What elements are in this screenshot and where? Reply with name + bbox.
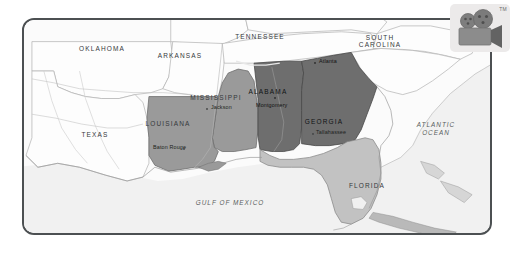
reel-hole-5 xyxy=(485,15,488,18)
map-frame[interactable]: OKLAHOMA ARKANSAS TENNESSEE SOUTH CAROLI… xyxy=(22,18,492,235)
reel-hole-3 xyxy=(467,22,470,25)
camera-reel-left xyxy=(461,14,476,29)
reel-hole-1 xyxy=(464,18,467,21)
camera-lens-cone xyxy=(491,25,502,48)
state-outline-arkansas xyxy=(163,40,224,97)
movie-camera-logo[interactable]: TM xyxy=(450,4,510,52)
trademark-symbol: TM xyxy=(499,6,507,12)
reel-hole-2 xyxy=(469,18,472,21)
reel-hole-4 xyxy=(478,15,481,18)
state-shape-alabama xyxy=(254,61,304,151)
reel-hole-6 xyxy=(482,21,485,24)
camera-reel-right xyxy=(474,10,493,29)
state-outline-kentucky xyxy=(244,20,387,34)
camera-body xyxy=(459,28,491,45)
map-graphic xyxy=(24,20,490,233)
screenshot-stage: OKLAHOMA ARKANSAS TENNESSEE SOUTH CAROLI… xyxy=(0,0,515,257)
